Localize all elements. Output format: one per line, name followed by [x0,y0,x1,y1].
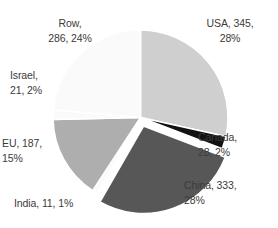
pie-label-india: India, 11, 1% [14,196,130,211]
pie-label-israel: Israel, 21, 2% [10,68,86,97]
pie-label-eu: EU, 187, 15% [2,136,78,165]
pie-chart: Row, 286, 24% USA, 345, 28% Israel, 21, … [0,0,278,228]
pie-label-row: Row, 286, 24% [18,16,122,45]
pie-label-canada: Canada, 28, 2% [198,130,276,159]
pie-label-usa: USA, 345, 28% [190,16,270,45]
pie-label-china: China, 333, 28% [184,178,274,207]
